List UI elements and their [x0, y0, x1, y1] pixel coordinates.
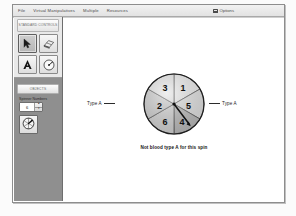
eraser-icon	[43, 39, 55, 49]
tool-grid	[14, 34, 62, 75]
spinner-numbers-value[interactable]: 6	[20, 103, 34, 111]
sector-label-6: 6	[162, 117, 167, 127]
objects-panel: OBJECTS Spinner Numbers 6 ▴ ▾	[14, 83, 62, 201]
menu-item-file[interactable]: File	[15, 5, 28, 16]
sector-label-1: 1	[180, 83, 185, 93]
application-window: File Virtual Manipulatives Multiple Reso…	[12, 4, 285, 203]
spinner-stage: Type A	[61, 17, 284, 202]
type-a-label-right: Type A	[222, 101, 237, 106]
text-tool-button[interactable]	[18, 55, 37, 74]
spinner-numbers-label: Spinner Numbers	[19, 97, 62, 101]
spinner-dial-icon	[43, 59, 55, 71]
menu-bar: File Virtual Manipulatives Multiple Reso…	[13, 5, 284, 17]
standard-controls-panel: STANDARD CONTROLS	[14, 17, 62, 78]
leader-line-right	[209, 103, 220, 104]
arrow-pointer-icon	[23, 38, 32, 49]
stepper-buttons: ▴ ▾	[34, 103, 42, 111]
tool-sidebar: STANDARD CONTROLS	[14, 17, 63, 201]
spinner-object-button[interactable]	[19, 115, 38, 134]
letter-a-icon	[22, 59, 33, 70]
stepper-down-button[interactable]: ▾	[35, 108, 42, 112]
menu-item-multiple[interactable]: Multiple	[80, 5, 102, 16]
options-label: Options	[220, 8, 234, 13]
spinner-object-icon	[22, 116, 35, 134]
spinner-widget[interactable]: 1 5 4 6 2 3	[141, 71, 207, 137]
spinner-numbers-stepper[interactable]: 6 ▴ ▾	[19, 102, 43, 112]
standard-controls-header: STANDARD CONTROLS	[17, 19, 59, 32]
spinner-tool-button[interactable]	[39, 55, 58, 74]
sector-label-5: 5	[186, 101, 191, 111]
menu-item-resources[interactable]: Resources	[104, 5, 131, 16]
pointer-tool-button[interactable]	[18, 34, 37, 53]
options-icon	[213, 9, 218, 13]
options-button[interactable]: Options	[213, 8, 234, 13]
eraser-tool-button[interactable]	[39, 34, 58, 53]
sector-label-3: 3	[162, 83, 167, 93]
sector-label-2: 2	[157, 101, 162, 111]
spinner-graphic[interactable]: 1 5 4 6 2 3	[141, 71, 207, 137]
type-a-label-right-group: Type A	[209, 101, 237, 106]
screenshot-root: File Virtual Manipulatives Multiple Reso…	[0, 0, 296, 216]
type-a-label-left-group: Type A	[87, 101, 115, 106]
menu-item-virtual-manipulatives[interactable]: Virtual Manipulatives	[30, 5, 78, 16]
type-a-label-left: Type A	[87, 101, 102, 106]
spin-result-caption: Not blood type A for this spin	[104, 145, 244, 150]
leader-line-left	[104, 103, 115, 104]
objects-header: OBJECTS	[17, 84, 59, 94]
